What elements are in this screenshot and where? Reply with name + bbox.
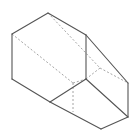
visible-edges (12, 13, 128, 129)
visible-edge-FG (86, 35, 128, 83)
visible-edge-HI (101, 117, 128, 129)
hidden-edge-QE (86, 68, 100, 79)
visible-edge-AB (12, 13, 48, 34)
visible-edge-ID (50, 102, 101, 129)
visible-edge-CD (12, 79, 50, 102)
visible-edge-FA (48, 13, 86, 35)
visible-edge-DE (50, 79, 86, 102)
hidden-edge-AQ (48, 13, 100, 68)
polyhedron-diagram (0, 0, 139, 140)
visible-edge-EH (86, 79, 128, 117)
hidden-edge-QG (100, 68, 128, 83)
hidden-edge-BR (12, 34, 73, 83)
